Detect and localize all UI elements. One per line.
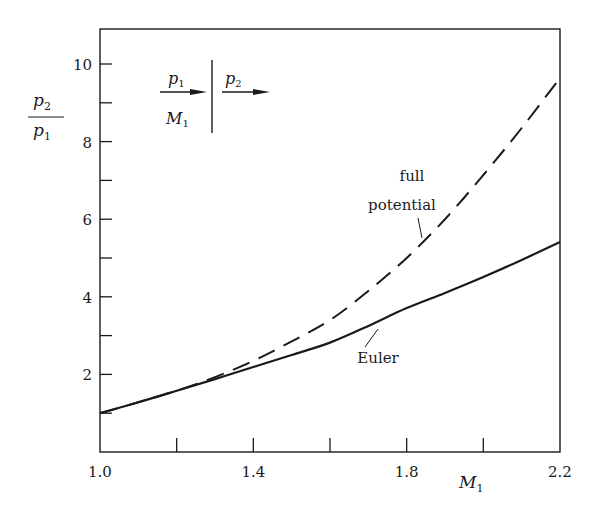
svg-text:Euler: Euler bbox=[357, 349, 399, 367]
inset-m1-label: M1 bbox=[165, 109, 189, 129]
y-axis-label: p2 p1 bbox=[28, 90, 64, 143]
svg-text:potential: potential bbox=[368, 196, 436, 214]
axis-ticks bbox=[100, 64, 483, 452]
x-axis-label: M1 bbox=[458, 472, 483, 495]
x-tick-label: 2.2 bbox=[548, 463, 572, 481]
tick-labels: 1.01.41.82.2246810 bbox=[73, 56, 572, 481]
svg-text:p1: p1 bbox=[33, 120, 51, 143]
full-potential-annotation: full potential bbox=[368, 167, 436, 238]
svg-text:full: full bbox=[400, 167, 425, 185]
y-tick-label: 4 bbox=[82, 289, 92, 307]
y-tick-label: 8 bbox=[82, 134, 92, 152]
x-tick-label: 1.0 bbox=[88, 463, 112, 481]
inset-p1-label: p1 bbox=[168, 69, 185, 89]
euler-annotation: Euler bbox=[357, 329, 399, 367]
shock-inset-diagram: p1 p2 M1 bbox=[160, 60, 270, 133]
downstream-arrowhead-icon bbox=[253, 89, 270, 95]
euler-curve bbox=[100, 242, 560, 413]
x-tick-label: 1.4 bbox=[241, 463, 265, 481]
shock-pressure-ratio-chart: 1.01.41.82.2246810 p2 p1 M1 p1 p2 M1 ful… bbox=[0, 0, 593, 515]
x-tick-label: 1.8 bbox=[395, 463, 419, 481]
full-potential-curve bbox=[100, 78, 560, 413]
svg-text:p2: p2 bbox=[33, 90, 51, 113]
inset-p2-label: p2 bbox=[225, 69, 242, 89]
y-tick-label: 2 bbox=[82, 366, 92, 384]
y-tick-label: 10 bbox=[73, 56, 92, 74]
upstream-arrowhead-icon bbox=[190, 89, 207, 95]
y-tick-label: 6 bbox=[82, 211, 92, 229]
